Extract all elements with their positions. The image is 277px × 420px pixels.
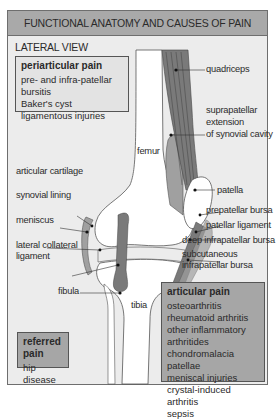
label-patellar-ligament: patellar ligament (206, 220, 271, 231)
periarticular-title: periarticular pain (21, 60, 123, 72)
periarticular-item: pre- and infra-patellar bursitis (21, 74, 123, 98)
label-subcutaneous-2: infrapatellar bursa (182, 260, 253, 271)
label-suprapatellar-2: extension (206, 117, 244, 128)
label-quadriceps: quadriceps (206, 64, 249, 75)
label-tibia: tibia (131, 300, 147, 311)
label-femur: femur (137, 146, 160, 157)
articular-item: crystal-induced arthritis (167, 384, 259, 408)
articular-pain-box: articular pain osteoarthritis rheumatoid… (161, 282, 265, 382)
label-subcutaneous-1: subcutaneous (182, 249, 238, 260)
referred-pain-box: referred pain hip disease (17, 332, 69, 368)
label-lateral-collateral-1: lateral collateral (16, 240, 78, 251)
label-patella: patella (217, 185, 243, 196)
periarticular-item: ligamentous injuries (21, 110, 123, 122)
label-prepatellar-bursa: prepatellar bursa (206, 205, 272, 216)
articular-item: rheumatoid arthritis (167, 312, 259, 324)
periarticular-item: Baker's cyst (21, 98, 123, 110)
label-lateral-collateral-2: ligament (16, 251, 50, 262)
label-suprapatellar-3: of synovial cavity (206, 129, 273, 140)
articular-item: chondromalacia patellae (167, 348, 259, 372)
fibula-bone (104, 284, 115, 384)
articular-item: osteoarthritis (167, 300, 259, 312)
label-fibula: fibula (58, 286, 79, 297)
label-deep-infrapatellar-bursa: deep infrapatellar bursa (182, 235, 275, 246)
articular-item: sepsis (167, 408, 259, 420)
label-meniscus: meniscus (16, 215, 54, 226)
articular-item: meniscal injuries (167, 372, 259, 384)
label-articular-cartilage: articular cartilage (16, 166, 83, 177)
label-synovial-lining: synovial lining (16, 190, 71, 201)
referred-title: referred pain (23, 336, 63, 360)
label-suprapatellar-1: suprapatellar (206, 105, 257, 116)
articular-title: articular pain (167, 286, 259, 298)
referred-item: hip disease (23, 362, 63, 386)
articular-item: other inflammatory arthritides (167, 324, 259, 348)
periarticular-pain-box: periarticular pain pre- and infra-patell… (15, 56, 129, 112)
